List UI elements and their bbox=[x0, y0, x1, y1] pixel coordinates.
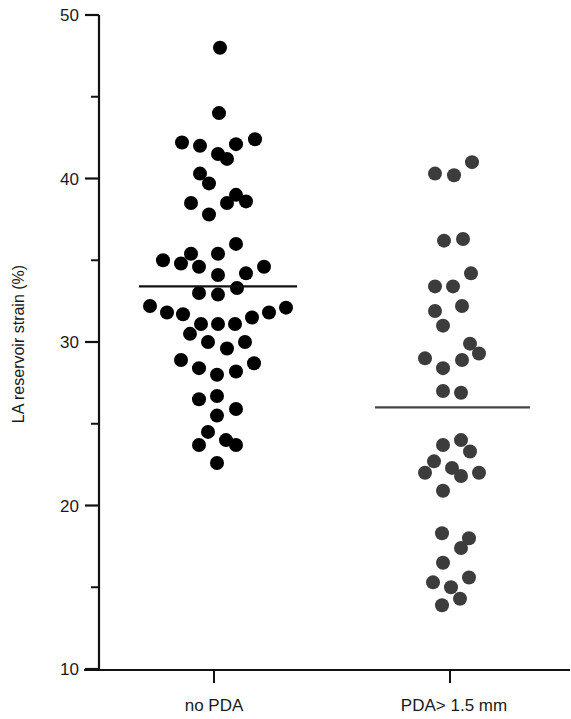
data-point bbox=[229, 364, 243, 378]
data-point bbox=[454, 541, 468, 555]
data-point bbox=[436, 438, 450, 452]
data-point bbox=[230, 281, 244, 295]
data-point bbox=[248, 132, 262, 146]
data-point bbox=[428, 167, 442, 181]
data-point bbox=[156, 253, 170, 267]
x-category-label: PDA> 1.5 mm bbox=[401, 696, 507, 715]
data-point bbox=[454, 433, 468, 447]
data-point bbox=[436, 319, 450, 333]
data-point bbox=[436, 384, 450, 398]
data-point bbox=[213, 41, 227, 55]
data-point bbox=[212, 106, 226, 120]
data-point bbox=[229, 237, 243, 251]
data-point bbox=[211, 268, 225, 282]
data-point bbox=[192, 392, 206, 406]
data-point bbox=[175, 136, 189, 150]
data-point bbox=[455, 299, 469, 313]
data-point bbox=[444, 580, 458, 594]
y-tick-label: 20 bbox=[60, 497, 79, 516]
data-point bbox=[192, 260, 206, 274]
data-point bbox=[193, 139, 207, 153]
y-tick-label: 50 bbox=[60, 6, 79, 25]
data-point bbox=[228, 317, 242, 331]
data-point bbox=[463, 445, 477, 459]
data-point bbox=[201, 425, 215, 439]
data-point bbox=[211, 288, 225, 302]
data-point bbox=[229, 137, 243, 151]
data-point bbox=[192, 286, 206, 300]
data-point bbox=[436, 556, 450, 570]
x-category-label: no PDA bbox=[185, 696, 244, 715]
data-point bbox=[455, 353, 469, 367]
data-point bbox=[143, 299, 157, 313]
data-point bbox=[465, 155, 479, 169]
data-point bbox=[184, 196, 198, 210]
data-point bbox=[426, 575, 440, 589]
data-point bbox=[427, 454, 441, 468]
data-point bbox=[245, 310, 259, 324]
data-point bbox=[462, 570, 476, 584]
data-point bbox=[229, 402, 243, 416]
data-point bbox=[418, 351, 432, 365]
data-point bbox=[192, 361, 206, 375]
y-axis: 1020304050 bbox=[60, 6, 99, 679]
data-point bbox=[453, 592, 467, 606]
data-point bbox=[220, 196, 234, 210]
data-point bbox=[160, 306, 174, 320]
data-point bbox=[436, 361, 450, 375]
data-point bbox=[202, 176, 216, 190]
data-point bbox=[435, 598, 449, 612]
data-point bbox=[183, 327, 197, 341]
y-tick-label: 40 bbox=[60, 170, 79, 189]
data-point bbox=[210, 389, 224, 403]
data-point bbox=[464, 266, 478, 280]
data-point bbox=[262, 306, 276, 320]
data-point bbox=[184, 247, 198, 261]
data-point bbox=[211, 317, 225, 331]
data-point bbox=[210, 368, 224, 382]
data-point bbox=[210, 409, 224, 423]
data-point bbox=[418, 466, 432, 480]
data-point bbox=[447, 168, 461, 182]
data-point bbox=[229, 438, 243, 452]
data-point bbox=[446, 279, 460, 293]
data-point bbox=[454, 386, 468, 400]
data-point bbox=[428, 304, 442, 318]
data-point bbox=[472, 346, 486, 360]
data-point bbox=[211, 247, 225, 261]
data-point bbox=[428, 279, 442, 293]
data-point bbox=[220, 152, 234, 166]
y-tick-label: 30 bbox=[60, 333, 79, 352]
data-point bbox=[437, 234, 451, 248]
data-point bbox=[247, 356, 261, 370]
data-point bbox=[201, 335, 215, 349]
data-points bbox=[143, 41, 486, 613]
data-point bbox=[220, 342, 234, 356]
y-tick-label: 10 bbox=[60, 660, 79, 679]
data-point bbox=[176, 307, 190, 321]
data-point bbox=[435, 526, 449, 540]
data-point bbox=[202, 207, 216, 221]
data-point bbox=[192, 438, 206, 452]
data-point bbox=[454, 469, 468, 483]
data-point bbox=[279, 301, 293, 315]
data-point bbox=[239, 266, 253, 280]
data-point bbox=[174, 353, 188, 367]
data-point bbox=[257, 260, 271, 274]
dot-plot-chart: 1020304050 no PDAPDA> 1.5 mm LA reservoi… bbox=[0, 0, 571, 719]
data-point bbox=[436, 484, 450, 498]
y-axis-title: LA reservoir strain (%) bbox=[10, 265, 27, 423]
data-point bbox=[456, 232, 470, 246]
data-point bbox=[174, 257, 188, 271]
x-axis: no PDAPDA> 1.5 mm bbox=[84, 670, 570, 715]
data-point bbox=[238, 335, 252, 349]
data-point bbox=[194, 317, 208, 331]
data-point bbox=[472, 466, 486, 480]
data-point bbox=[210, 456, 224, 470]
data-point bbox=[239, 194, 253, 208]
